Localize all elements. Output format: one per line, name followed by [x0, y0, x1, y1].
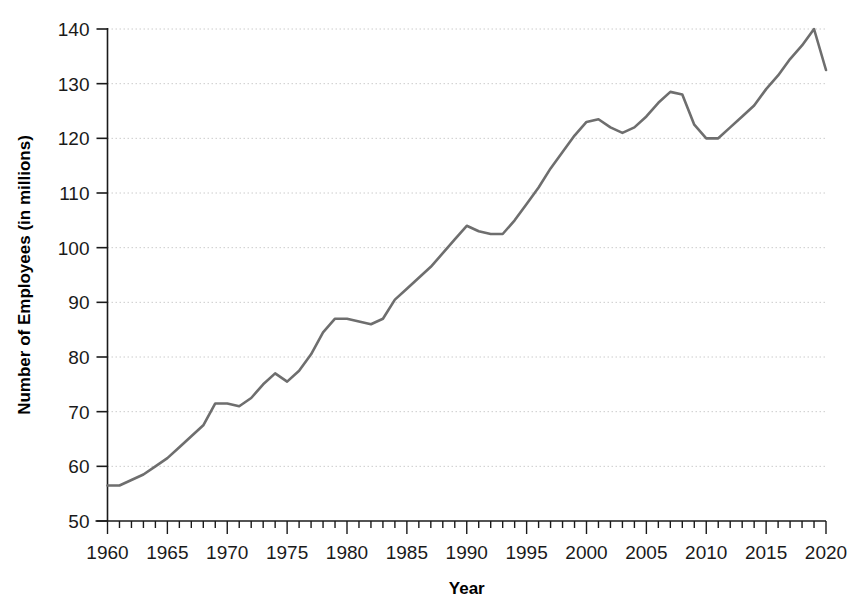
x-tick-label-2020: 2020 — [805, 542, 847, 563]
x-tick-label-1985: 1985 — [386, 542, 428, 563]
y-tick-label-80: 80 — [68, 347, 89, 368]
x-tick-label-2010: 2010 — [685, 542, 727, 563]
chart-container: 5060708090100110120130140 19601965197019… — [0, 0, 864, 613]
y-tick-label-60: 60 — [68, 456, 89, 477]
y-tick-label-50: 50 — [68, 511, 89, 532]
x-tick-label-2005: 2005 — [625, 542, 667, 563]
x-tick-label-1980: 1980 — [326, 542, 368, 563]
y-tick-label-140: 140 — [58, 19, 90, 40]
y-tick-label-90: 90 — [68, 292, 89, 313]
x-tick-label-1995: 1995 — [505, 542, 547, 563]
y-axis-title: Number of Employees (in millions) — [15, 135, 34, 415]
y-tick-label-120: 120 — [58, 128, 90, 149]
y-tick-label-70: 70 — [68, 402, 89, 423]
x-tick-label-1990: 1990 — [446, 542, 488, 563]
x-tick-label-2015: 2015 — [745, 542, 787, 563]
y-tick-label-130: 130 — [58, 74, 90, 95]
line-chart: 5060708090100110120130140 19601965197019… — [0, 0, 864, 613]
x-tick-label-1970: 1970 — [206, 542, 248, 563]
y-tick-label-100: 100 — [58, 238, 90, 259]
x-tick-label-1975: 1975 — [266, 542, 308, 563]
x-tick-label-1965: 1965 — [146, 542, 188, 563]
x-tick-label-2000: 2000 — [565, 542, 607, 563]
x-tick-label-1960: 1960 — [86, 542, 128, 563]
y-tick-label-110: 110 — [59, 183, 89, 204]
x-axis-title: Year — [449, 579, 485, 598]
